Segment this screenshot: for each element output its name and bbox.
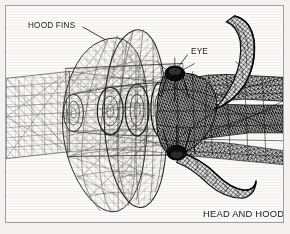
leader-hood-fins	[82, 27, 105, 40]
figure-plate: HOOD FINS EYE HEAD AND HOOD	[5, 5, 284, 223]
body-tube-left	[6, 71, 70, 158]
wireframe-illustration	[6, 6, 283, 222]
figure-page: HOOD FINS EYE HEAD AND HOOD	[0, 0, 290, 234]
figure-caption: HEAD AND HOOD	[203, 209, 284, 218]
label-hood-fins: HOOD FINS	[28, 22, 75, 30]
label-eye: EYE	[191, 48, 208, 56]
